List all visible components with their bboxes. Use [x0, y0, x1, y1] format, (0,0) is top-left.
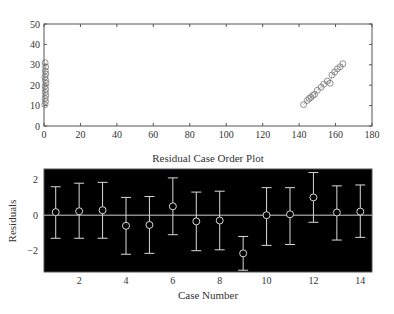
x-tick-label: 60: [148, 129, 158, 140]
residual-point: [193, 218, 200, 225]
x-tick-label: 40: [112, 129, 122, 140]
x-tick-label: 20: [75, 129, 85, 140]
x-tick-label: 6: [170, 275, 175, 286]
x-tick-label: 140: [292, 129, 307, 140]
figure: 020406080100120140160180 01020304050 Res…: [0, 0, 394, 314]
x-tick-label: 0: [42, 129, 47, 140]
x-tick-label: 8: [217, 275, 222, 286]
x-tick-label: 12: [308, 275, 318, 286]
y-tick-label: 0: [35, 121, 40, 132]
top-plot-frame: [44, 24, 372, 126]
x-tick-label: 10: [262, 275, 272, 286]
residual-point: [357, 208, 364, 215]
top-scatter-plot: 020406080100120140160180 01020304050: [30, 19, 380, 141]
x-tick-label: 2: [77, 275, 82, 286]
y-tick-label: 50: [30, 19, 40, 30]
residual-point: [263, 212, 270, 219]
residual-point: [169, 203, 176, 210]
y-tick-label: 0: [33, 210, 38, 221]
y-tick-label: 2: [33, 174, 38, 185]
residual-plot-title: Residual Case Order Plot: [152, 152, 264, 164]
residual-point: [310, 194, 317, 201]
x-tick-label: 14: [355, 275, 365, 286]
x-tick-label: 100: [219, 129, 234, 140]
residual-point: [287, 211, 294, 218]
x-tick-label: 120: [255, 129, 270, 140]
y-tick-label: 10: [30, 100, 40, 111]
y-tick-label: 30: [30, 59, 40, 70]
residual-point: [146, 221, 153, 228]
x-axis-label: Case Number: [178, 289, 239, 301]
bottom-plot-frame: [44, 169, 372, 272]
residual-point: [52, 209, 59, 216]
x-tick-label: 80: [185, 129, 195, 140]
residual-point: [333, 209, 340, 216]
residual-point: [240, 250, 247, 257]
bottom-x-axis: 2468101214: [77, 275, 366, 286]
x-tick-label: 4: [124, 275, 129, 286]
residual-point: [76, 208, 83, 215]
residual-point: [99, 207, 106, 214]
y-tick-label: 40: [30, 39, 40, 50]
residual-point: [216, 217, 223, 224]
y-tick-label: −2: [27, 245, 38, 256]
bottom-y-axis: −202: [27, 174, 38, 256]
residual-point: [123, 222, 130, 229]
x-tick-label: 160: [328, 129, 343, 140]
y-axis-label: Residuals: [6, 200, 18, 243]
residual-case-order-plot: Residual Case Order Plot 2468101214 −202…: [6, 152, 372, 301]
y-tick-label: 20: [30, 80, 40, 91]
x-tick-label: 180: [365, 129, 380, 140]
